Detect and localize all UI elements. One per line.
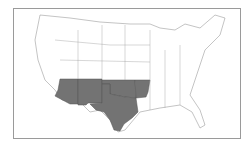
us-map [0, 0, 248, 143]
state-new-mexico [78, 79, 102, 105]
